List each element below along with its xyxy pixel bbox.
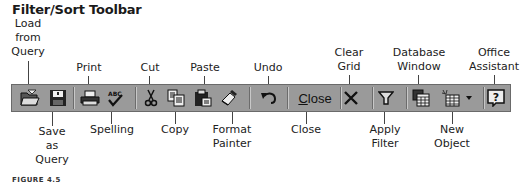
- label-line: from: [11, 31, 44, 45]
- label-print: Print: [76, 61, 101, 75]
- paste-button[interactable]: [192, 88, 214, 108]
- chevron-down-icon[interactable]: [465, 94, 473, 102]
- label-line: Window: [393, 60, 446, 74]
- format-painter-button[interactable]: [219, 88, 241, 108]
- close-label: lose: [308, 91, 332, 106]
- label-database-window: Database Window: [393, 46, 446, 74]
- toolbar-separator: [406, 87, 408, 109]
- toolbar-separator: [73, 87, 75, 109]
- label-line: Format: [213, 123, 252, 137]
- label-undo: Undo: [254, 61, 283, 75]
- label-copy: Copy: [161, 123, 189, 137]
- label-line: as: [35, 139, 68, 153]
- label-line: Print: [76, 61, 101, 75]
- help-question-icon: ?: [487, 89, 505, 107]
- figure-caption: FIGURE 4.5: [12, 176, 61, 184]
- label-line: Load: [11, 17, 44, 31]
- label-line: Grid: [335, 60, 364, 74]
- label-line: Close: [291, 123, 321, 137]
- label-line: Clear: [335, 46, 364, 60]
- label-paste: Paste: [190, 61, 220, 75]
- label-line: Object: [434, 137, 470, 151]
- database-window-button[interactable]: [410, 88, 432, 108]
- svg-text:?: ?: [493, 91, 499, 104]
- label-line: Save: [35, 125, 68, 139]
- label-line: Paste: [190, 61, 220, 75]
- close-access-key: C: [298, 91, 307, 106]
- x-icon: [343, 90, 359, 106]
- label-save-as-query: Save as Query: [35, 125, 68, 167]
- funnel-icon: [378, 90, 394, 106]
- label-line: Assistant: [469, 60, 519, 74]
- label-line: Query: [35, 153, 68, 167]
- label-line: Filter: [369, 137, 400, 151]
- label-line: Office: [469, 46, 519, 60]
- label-line: Query: [11, 45, 44, 59]
- load-from-query-button[interactable]: [19, 88, 41, 108]
- toolbar-separator: [249, 87, 251, 109]
- undo-arrow-icon: [260, 90, 278, 106]
- leader-line: [52, 112, 53, 126]
- copy-icon: [167, 89, 185, 107]
- copy-button[interactable]: [165, 88, 187, 108]
- undo-button[interactable]: [257, 88, 281, 108]
- label-new-object: New Object: [434, 123, 470, 151]
- apply-filter-button[interactable]: [376, 88, 396, 108]
- cut-button[interactable]: [141, 88, 161, 108]
- close-button[interactable]: Close: [292, 88, 338, 108]
- spelling-button[interactable]: ABC: [104, 88, 126, 108]
- label-office-assistant: Office Assistant: [469, 46, 519, 74]
- diagram-title: Filter/Sort Toolbar: [12, 2, 142, 17]
- new-table-icon: [441, 89, 461, 107]
- printer-icon: [80, 89, 100, 107]
- paintbrush-icon: [220, 89, 240, 107]
- label-clear-grid: Clear Grid: [335, 46, 364, 74]
- label-line: Painter: [213, 137, 252, 151]
- toolbar-separator: [372, 87, 374, 109]
- scissors-icon: [144, 89, 158, 107]
- print-button[interactable]: [79, 88, 101, 108]
- label-line: Spelling: [90, 123, 134, 137]
- floppy-disk-icon: [49, 89, 67, 107]
- label-load-from-query: Load from Query: [11, 17, 44, 59]
- label-line: Database: [393, 46, 446, 60]
- label-line: Apply: [369, 123, 400, 137]
- toolbar-separator: [135, 87, 137, 109]
- label-close: Close: [291, 123, 321, 137]
- open-folder-icon: [20, 89, 40, 107]
- clear-grid-button[interactable]: [342, 88, 360, 108]
- toolbar-separator: [287, 87, 289, 109]
- label-line: Copy: [161, 123, 189, 137]
- new-object-button[interactable]: [440, 88, 474, 108]
- filter-sort-toolbar: ABC: [11, 84, 511, 112]
- label-line: Cut: [141, 61, 160, 75]
- clipboard-icon: [194, 89, 212, 107]
- label-line: Undo: [254, 61, 283, 75]
- toolbar-separator: [483, 87, 485, 109]
- save-as-query-button[interactable]: [47, 88, 69, 108]
- database-window-icon: [412, 89, 430, 107]
- label-line: New: [434, 123, 470, 137]
- office-assistant-button[interactable]: ?: [486, 88, 506, 108]
- label-cut: Cut: [141, 61, 160, 75]
- label-spelling: Spelling: [90, 123, 134, 137]
- label-apply-filter: Apply Filter: [369, 123, 400, 151]
- spell-check-icon: ABC: [105, 89, 125, 107]
- label-format-painter: Format Painter: [213, 123, 252, 151]
